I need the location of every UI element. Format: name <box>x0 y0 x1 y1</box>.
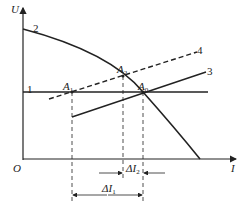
line-3 <box>72 72 206 117</box>
i-axis-label: I <box>231 163 235 174</box>
u-axis-label: U <box>11 4 19 15</box>
curve-1-label: 1 <box>27 84 33 95</box>
delta-i1-label: ΔI1 <box>102 183 116 196</box>
curve-2-label: 2 <box>33 23 39 34</box>
curve-3-label: 3 <box>207 66 213 77</box>
point-a1-label: A1 <box>63 81 73 94</box>
point-a0-label: A0 <box>138 81 148 94</box>
point-a2-label: A2 <box>117 64 127 77</box>
curve-4-label: 4 <box>197 45 203 56</box>
origin-label: O <box>13 163 21 174</box>
characteristic-diagram: U I O 1 2 3 4 A1 A2 A0 ΔI2 ΔI1 <box>0 0 246 212</box>
curve-2 <box>23 29 200 159</box>
delta-i2-label: ΔI2 <box>126 163 140 176</box>
